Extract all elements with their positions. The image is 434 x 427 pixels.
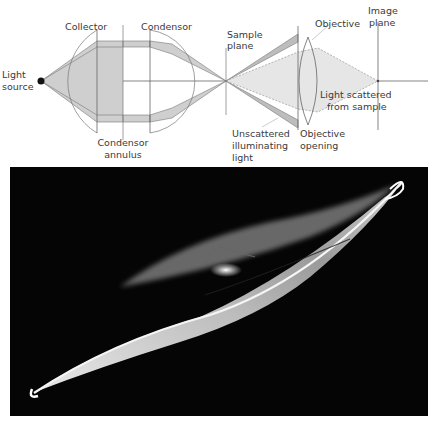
label-objective: Objective [315, 18, 360, 29]
unscattered-leader [262, 118, 278, 127]
label-light-source-2: source [2, 81, 34, 92]
label-image-plane: Image [368, 5, 398, 16]
darkfield-micrograph [10, 167, 428, 416]
darkfield-optical-path-diagram: Light source Collector Condensor Condens… [0, 0, 434, 165]
light-source-dot [38, 78, 45, 85]
collimated-beam [97, 41, 123, 122]
label-collector: Collector [65, 21, 107, 32]
label-unscattered-2: illuminating [232, 140, 288, 151]
label-objective-opening-2: opening [300, 140, 338, 151]
label-light-scattered-2: from sample [327, 101, 387, 112]
annular-band-bottom [123, 115, 150, 122]
label-light-source: Light [2, 69, 26, 80]
label-image-plane-2: plane [369, 17, 396, 28]
annular-band-top [123, 41, 150, 47]
label-unscattered: Unscattered [232, 128, 290, 139]
label-sample-plane: Sample [227, 29, 263, 40]
label-condensor: Condensor [141, 21, 192, 32]
condensor-band-bottom [150, 81, 226, 122]
label-condensor-annulus: Condensor [97, 137, 148, 148]
label-objective-opening: Objective [300, 128, 345, 139]
label-unscattered-3: light [232, 152, 253, 163]
label-condensor-annulus-2: annulus [104, 149, 142, 160]
image-point [377, 80, 379, 82]
central-nodule [210, 263, 242, 277]
label-sample-plane-2: plane [227, 40, 254, 51]
condensor-band-top [150, 41, 226, 81]
label-light-scattered: Light scattered [320, 89, 392, 100]
